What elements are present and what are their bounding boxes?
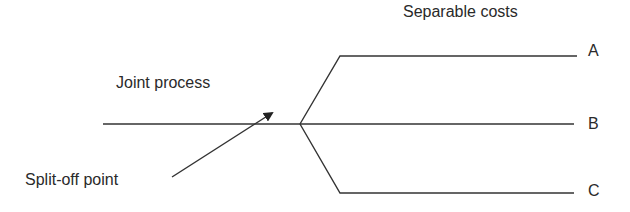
product-a-label: A bbox=[588, 43, 599, 59]
splitoff-arrow bbox=[172, 113, 272, 177]
branch-a-line bbox=[300, 56, 577, 124]
joint-process-label: Joint process bbox=[116, 75, 210, 91]
branch-c-line bbox=[300, 124, 574, 193]
splitoff-point-label: Split-off point bbox=[25, 172, 118, 188]
separable-costs-title: Separable costs bbox=[403, 4, 518, 20]
product-b-label: B bbox=[588, 116, 599, 132]
product-c-label: C bbox=[588, 183, 600, 199]
